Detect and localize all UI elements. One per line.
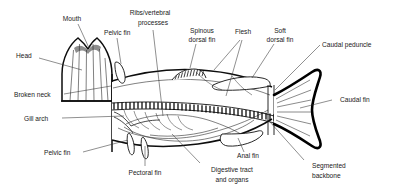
label-pectoral-fin: Pectoral fin <box>129 169 162 176</box>
leader-pelvic-fin-lower <box>83 140 128 152</box>
fish-illustration <box>61 38 321 159</box>
label-pelvic-fin-lower: Pelvic fin <box>44 149 71 156</box>
label-digestive-line2: and organs <box>216 176 250 184</box>
leader-pelvic-fin-upper <box>117 38 121 64</box>
label-ribs-vertebral-line2: processes <box>138 19 169 27</box>
label-gill-arch: Gill arch <box>24 115 49 122</box>
head-shape <box>61 38 113 101</box>
label-digestive-line1: Digestive tract <box>211 166 253 174</box>
caudal-fin-shape <box>274 70 321 148</box>
label-caudal-fin: Caudal fin <box>340 96 370 103</box>
fish-anatomy-diagram: Mouth Head Pelvic fin Ribs/vertebral pro… <box>0 0 399 195</box>
label-spinous-dorsal-line1: Spinous <box>190 27 215 35</box>
label-anal-fin: Anal fin <box>237 152 259 159</box>
label-segmented-line2: backbone <box>312 172 341 179</box>
label-pelvic-fin-upper: Pelvic fin <box>104 29 131 36</box>
label-flesh: Flesh <box>235 28 251 35</box>
label-broken-neck: Broken neck <box>14 91 51 98</box>
leader-soft-dorsal <box>252 44 274 78</box>
label-head: Head <box>16 52 32 59</box>
label-soft-dorsal-line1: Soft <box>274 27 286 34</box>
label-spinous-dorsal-line2: dorsal fin <box>189 36 216 43</box>
label-caudal-peduncle: Caudal peduncle <box>322 41 372 49</box>
label-mouth: Mouth <box>63 15 82 22</box>
label-ribs-vertebral-line1: Ribs/vertebral <box>130 9 171 16</box>
label-soft-dorsal-line2: dorsal fin <box>267 36 294 43</box>
leader-spinous-dorsal <box>190 44 196 68</box>
leader-flesh-a <box>214 40 240 70</box>
diagram-canvas: Mouth Head Pelvic fin Ribs/vertebral pro… <box>0 0 399 195</box>
label-segmented-line1: Segmented <box>312 162 346 170</box>
